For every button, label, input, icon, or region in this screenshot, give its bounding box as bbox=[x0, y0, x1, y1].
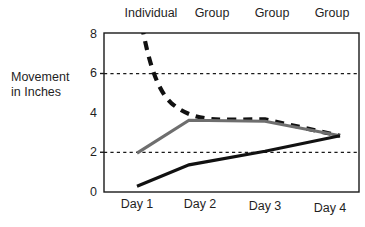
series-black-line bbox=[137, 136, 340, 186]
plot-area bbox=[0, 0, 365, 227]
plot-frame bbox=[104, 33, 359, 192]
series-dashed-individual-to-group bbox=[139, 10, 340, 136]
series-gray-line bbox=[137, 120, 340, 153]
movement-in-inches-line-chart: Individual Group Group Group Movement in… bbox=[0, 0, 365, 227]
